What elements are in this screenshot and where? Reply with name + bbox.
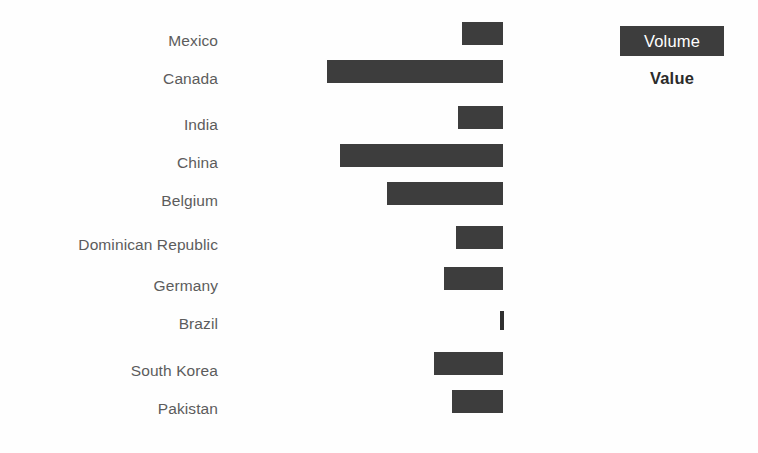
bar-brazil[interactable] — [500, 311, 504, 330]
category-label-dominican-republic: Dominican Republic — [78, 237, 218, 253]
legend-item-volume[interactable]: Volume — [620, 26, 724, 56]
bar-germany[interactable] — [444, 267, 503, 290]
bar-china[interactable] — [340, 144, 503, 167]
chart-canvas: Mexico Canada India China Belgium Domini… — [0, 0, 758, 453]
category-label-germany: Germany — [154, 278, 218, 294]
bar-mexico[interactable] — [462, 22, 503, 45]
category-label-belgium: Belgium — [161, 193, 218, 209]
bar-canada[interactable] — [327, 60, 503, 83]
legend: Volume Value — [620, 26, 724, 88]
category-label-china: China — [177, 155, 218, 171]
category-label-south-korea: South Korea — [131, 363, 218, 379]
bar-south-korea[interactable] — [434, 352, 503, 375]
bar-dominican-republic[interactable] — [456, 226, 503, 249]
category-label-india: India — [184, 117, 218, 133]
category-label-mexico: Mexico — [168, 33, 218, 49]
category-label-canada: Canada — [163, 71, 218, 87]
category-label-brazil: Brazil — [179, 316, 218, 332]
category-label-pakistan: Pakistan — [158, 401, 218, 417]
bar-belgium[interactable] — [387, 182, 503, 205]
bar-india[interactable] — [458, 106, 503, 129]
bar-pakistan[interactable] — [452, 390, 503, 413]
legend-item-value[interactable]: Value — [620, 68, 724, 88]
